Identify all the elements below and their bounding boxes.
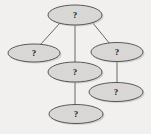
node-lower-right-label: ? <box>114 87 119 97</box>
node-root[interactable]: ? <box>48 5 104 27</box>
node-left-label: ? <box>32 48 37 58</box>
node-middle-label: ? <box>73 67 78 77</box>
edge-root-right <box>92 22 110 44</box>
node-lower-right[interactable]: ? <box>89 83 145 104</box>
diagram-canvas: ? ? ? ? ? ? <box>0 0 151 134</box>
edge-root-left <box>40 23 60 45</box>
node-right-label: ? <box>115 47 120 57</box>
node-right[interactable]: ? <box>91 43 145 64</box>
graph-svg: ? ? ? ? ? ? <box>0 0 151 134</box>
node-middle[interactable]: ? <box>48 62 104 84</box>
node-bottom[interactable]: ? <box>49 105 105 126</box>
node-root-label: ? <box>73 10 78 20</box>
node-left[interactable]: ? <box>8 44 62 64</box>
node-bottom-label: ? <box>74 109 79 119</box>
